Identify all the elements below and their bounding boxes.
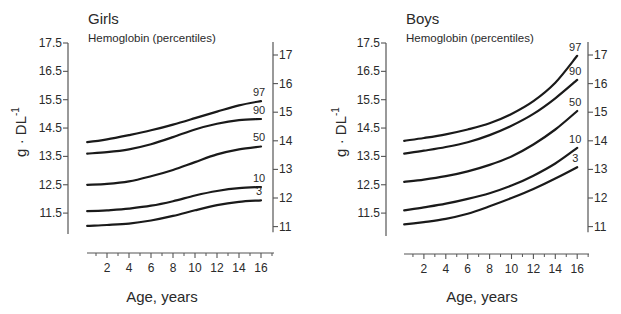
boys-y-axis-label: g · DL-1 (330, 107, 349, 157)
girls-x-tick-label: 2 (104, 261, 111, 275)
girls-percentile-50-label: 50 (253, 131, 265, 143)
girls-chart-title: Girls (88, 10, 119, 27)
boys-percentile-50-label: 50 (569, 96, 581, 108)
girls-percentile-90-label: 90 (253, 104, 265, 116)
girls-chart-subtitle: Hemoglobin (percentiles) (88, 32, 216, 44)
boys-x-tick-label: 8 (486, 262, 493, 276)
girls-x-tick-label: 4 (126, 261, 133, 275)
girls-x-tick-label: 8 (170, 261, 177, 275)
girls-chart-panel: Girls Hemoglobin (percentiles) g · DL-1 … (10, 10, 293, 305)
girls-percentile-97-label: 97 (253, 86, 265, 98)
boys-left-y-tick-label: 11.5 (358, 206, 381, 220)
boys-right-y-tick-label: 12 (594, 191, 608, 205)
boys-x-tick-label: 2 (421, 262, 428, 276)
boys-percentile-97-curve (404, 56, 577, 141)
hemoglobin-percentile-charts: Girls Hemoglobin (percentiles) g · DL-1 … (0, 0, 621, 314)
boys-x-tick-label: 10 (505, 262, 519, 276)
girls-percentile-10-curve (87, 187, 261, 211)
girls-left-y-tick-label: 11.5 (40, 206, 63, 220)
girls-left-y-tick-label: 17.5 (39, 36, 63, 50)
girls-left-y-tick-label: 13.5 (39, 149, 63, 163)
girls-x-tick-label: 16 (254, 261, 268, 275)
boys-x-tick-label: 4 (442, 262, 449, 276)
girls-percentile-10-label: 10 (253, 172, 265, 184)
boys-left-y-tick-label: 14.5 (357, 121, 381, 135)
girls-right-y-tick-label: 17 (279, 48, 293, 62)
boys-right-y-tick-label: 17 (594, 48, 608, 62)
boys-percentile-97-label: 97 (569, 41, 581, 53)
boys-x-tick-label: 6 (464, 262, 471, 276)
chart-canvas: Girls Hemoglobin (percentiles) g · DL-1 … (0, 0, 621, 314)
boys-right-y-tick-label: 14 (594, 134, 608, 148)
boys-left-y-tick-label: 12.5 (357, 178, 381, 192)
boys-percentile-10-label: 10 (569, 133, 581, 145)
girls-percentile-3-label: 3 (256, 185, 262, 197)
boys-x-axis-label: Age, years (446, 288, 518, 305)
boys-y-axis-label-main: g · DL (332, 116, 349, 157)
girls-y-axis-label-superscript: -1 (10, 107, 21, 116)
girls-left-y-tick-label: 12.5 (39, 178, 63, 192)
boys-x-tick-label: 16 (571, 262, 585, 276)
boys-left-y-tick-label: 15.5 (357, 93, 381, 107)
girls-right-y-tick-label: 15 (279, 105, 293, 119)
boys-right-y-tick-label: 16 (594, 77, 608, 91)
boys-right-y-tick-label: 11 (594, 220, 607, 234)
girls-right-y-tick-label: 12 (279, 191, 293, 205)
boys-x-tick-label: 14 (549, 262, 563, 276)
girls-right-y-tick-label: 14 (279, 134, 293, 148)
boys-chart-panel: Boys Hemoglobin (percentiles) g · DL-1 A… (330, 10, 608, 305)
girls-x-tick-label: 14 (232, 261, 246, 275)
boys-chart-title: Boys (406, 10, 439, 27)
boys-right-y-tick-label: 13 (594, 162, 608, 176)
boys-percentile-3-curve (404, 167, 577, 224)
boys-left-y-tick-label: 17.5 (357, 36, 381, 50)
girls-x-tick-label: 10 (188, 261, 202, 275)
boys-y-axis-label-superscript: -1 (330, 107, 341, 116)
girls-left-y-tick-label: 14.5 (39, 121, 63, 135)
boys-left-y-tick-label: 13.5 (357, 149, 381, 163)
boys-x-tick-label: 12 (527, 262, 541, 276)
girls-left-y-tick-label: 15.5 (39, 93, 63, 107)
girls-percentile-curves: 979050103 (87, 86, 265, 226)
boys-percentile-curves: 979050103 (404, 41, 581, 225)
boys-right-y-tick-label: 15 (594, 105, 608, 119)
boys-percentile-90-label: 90 (569, 65, 581, 77)
girls-y-axis-label: g · DL-1 (10, 107, 29, 157)
girls-x-axis-label: Age, years (126, 288, 198, 305)
girls-axes: 17.516.515.514.513.512.511.5171615141312… (39, 36, 293, 275)
girls-right-y-tick-label: 13 (279, 162, 293, 176)
boys-percentile-3-label: 3 (572, 152, 578, 164)
boys-left-y-tick-label: 16.5 (357, 64, 381, 78)
girls-right-y-tick-label: 16 (279, 77, 293, 91)
girls-x-tick-label: 12 (210, 261, 224, 275)
boys-percentile-90-curve (404, 80, 577, 154)
girls-left-y-tick-label: 16.5 (39, 64, 63, 78)
boys-chart-subtitle: Hemoglobin (percentiles) (406, 32, 534, 44)
girls-percentile-3-curve (87, 200, 261, 226)
girls-y-axis-label-main: g · DL (12, 116, 29, 157)
girls-x-tick-label: 6 (148, 261, 155, 275)
girls-right-y-tick-label: 11 (279, 220, 292, 234)
